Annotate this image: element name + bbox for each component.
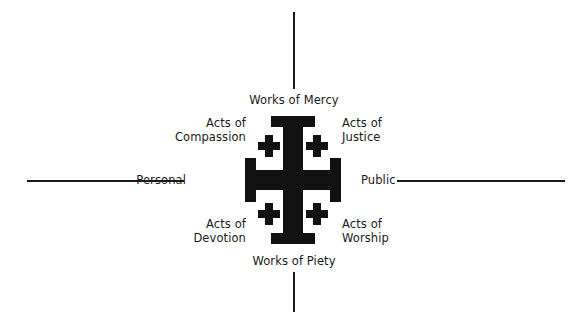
axis-line-bottom xyxy=(293,272,295,312)
cross-serif-left xyxy=(245,158,256,202)
label-acts-of-compassion-line2: Compassion xyxy=(106,131,246,145)
crosslet-bottom-left xyxy=(258,203,280,225)
label-acts-of-justice-line2: Justice xyxy=(342,131,482,145)
jerusalem-cross-graphic xyxy=(237,112,349,248)
cross-horizontal-bar xyxy=(245,170,341,190)
cross-serif-top xyxy=(271,116,315,127)
label-acts-of-compassion: Acts of Compassion xyxy=(106,117,246,144)
axis-line-top xyxy=(293,12,295,89)
label-acts-of-devotion: Acts of Devotion xyxy=(106,218,246,245)
cross-serif-bottom xyxy=(271,233,315,244)
label-acts-of-worship-line2: Worship xyxy=(342,232,482,246)
label-acts-of-justice: Acts of Justice xyxy=(342,117,482,144)
label-acts-of-compassion-line1: Acts of xyxy=(106,117,246,131)
label-acts-of-worship: Acts of Worship xyxy=(342,218,482,245)
crosslet-top-right xyxy=(306,135,328,157)
label-works-of-piety: Works of Piety xyxy=(0,255,588,269)
label-acts-of-justice-line1: Acts of xyxy=(342,117,482,131)
label-acts-of-devotion-line1: Acts of xyxy=(106,218,246,232)
diagram-canvas: Works of Mercy Works of Piety Personal P… xyxy=(0,0,588,316)
label-personal: Personal xyxy=(64,174,186,188)
crosslet-bottom-right xyxy=(306,203,328,225)
label-public: Public xyxy=(361,174,483,188)
label-acts-of-worship-line1: Acts of xyxy=(342,218,482,232)
crosslet-top-left xyxy=(258,135,280,157)
label-works-of-mercy: Works of Mercy xyxy=(0,94,588,108)
jerusalem-cross-svg xyxy=(237,112,349,248)
label-acts-of-devotion-line2: Devotion xyxy=(106,232,246,246)
cross-serif-right xyxy=(330,158,341,202)
